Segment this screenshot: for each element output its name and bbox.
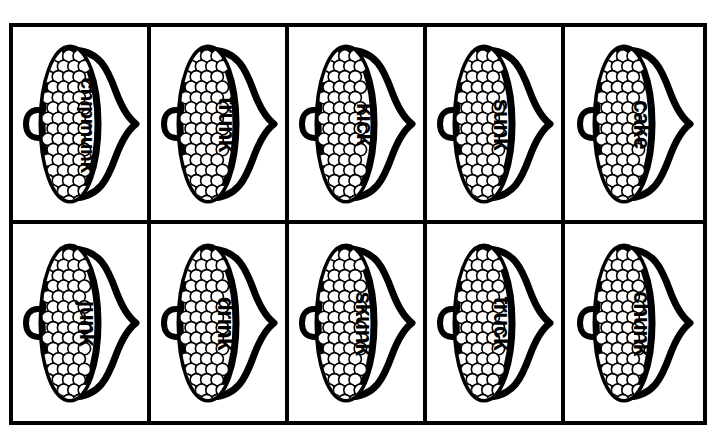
card-sheet-grid: chipmunktrunkkicksunkcakejunkdrinkskunkt… [9,23,707,425]
word-card[interactable]: trunk [151,27,289,224]
cupcake-illustration: sunk [430,36,558,212]
cupcake-illustration: junk [16,235,144,411]
word-card[interactable]: chunk [565,224,703,421]
cupcake-icon [16,235,144,411]
cupcake-icon [16,36,144,212]
cupcake-illustration: chipmunk [16,36,144,212]
cupcake-icon [570,235,698,411]
word-card[interactable]: truck [427,224,565,421]
word-card[interactable]: skunk [289,224,427,421]
cupcake-icon [154,235,282,411]
cupcake-illustration: trunk [154,36,282,212]
word-card[interactable]: cake [565,27,703,224]
cupcake-illustration: truck [430,235,558,411]
word-card[interactable]: drink [151,224,289,421]
cupcake-icon [292,36,420,212]
cupcake-icon [430,235,558,411]
word-card[interactable]: sunk [427,27,565,224]
word-card[interactable]: junk [13,224,151,421]
word-card[interactable]: kick [289,27,427,224]
cupcake-illustration: skunk [292,235,420,411]
cupcake-icon [570,36,698,212]
cupcake-icon [292,235,420,411]
cupcake-illustration: chunk [570,235,698,411]
cupcake-illustration: kick [292,36,420,212]
cupcake-illustration: cake [570,36,698,212]
page-header-artifact [653,0,713,11]
word-card[interactable]: chipmunk [13,27,151,224]
cupcake-illustration: drink [154,235,282,411]
cupcake-icon [430,36,558,212]
cupcake-icon [154,36,282,212]
